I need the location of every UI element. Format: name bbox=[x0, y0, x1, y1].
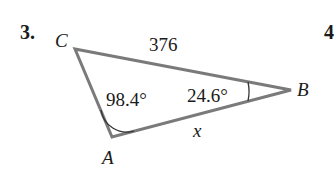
angle-label-a: 98.4° bbox=[106, 90, 147, 109]
angle-arc-a bbox=[101, 110, 134, 132]
side-label-ab: x bbox=[193, 121, 201, 140]
triangle-diagram bbox=[0, 0, 334, 182]
vertex-label-a: A bbox=[102, 148, 114, 167]
vertex-label-c: C bbox=[55, 31, 68, 50]
next-problem-number: 4 bbox=[324, 22, 334, 42]
angle-label-b: 24.6° bbox=[187, 86, 228, 105]
vertex-label-b: B bbox=[297, 80, 309, 99]
side-label-cb: 376 bbox=[149, 35, 178, 54]
problem-number: 3. bbox=[20, 22, 35, 42]
angle-arc-b bbox=[248, 82, 249, 101]
